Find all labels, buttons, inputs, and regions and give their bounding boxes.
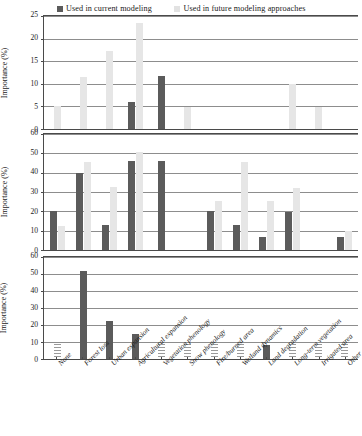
bar-group bbox=[280, 134, 306, 250]
bar-current bbox=[80, 271, 87, 359]
bar-future bbox=[80, 77, 87, 129]
bar-current bbox=[128, 102, 135, 129]
bar-group bbox=[175, 134, 201, 250]
y-tick-label-40: 40 bbox=[30, 169, 38, 177]
bar-future bbox=[315, 107, 322, 129]
x-axis-group: Snow phenology bbox=[174, 360, 200, 436]
bar-group bbox=[175, 16, 201, 129]
y-tick-label-20: 20 bbox=[30, 208, 38, 216]
y-tick-label-25: 25 bbox=[30, 11, 38, 19]
bar-current bbox=[259, 237, 266, 250]
bar-current bbox=[337, 237, 344, 250]
bar-group bbox=[70, 16, 96, 129]
y-tick-label-20: 20 bbox=[30, 34, 38, 42]
x-axis-group: None bbox=[43, 360, 69, 436]
x-axis-group: Vegetation phenology bbox=[148, 360, 174, 436]
bar-current bbox=[158, 76, 165, 129]
y-tick-label-0: 0 bbox=[34, 356, 38, 364]
bar-current bbox=[50, 211, 57, 250]
bar-current bbox=[285, 212, 292, 250]
x-axis-group: Agricultural expansion bbox=[122, 360, 148, 436]
y-tick-label-30: 30 bbox=[30, 188, 38, 196]
bar-group bbox=[253, 134, 279, 250]
plot-area-panel-2 bbox=[43, 133, 358, 251]
y-axis-tick-labels-panel-2: 0102030405060 bbox=[18, 133, 40, 251]
bar-future bbox=[289, 84, 296, 129]
bar-future bbox=[215, 201, 222, 250]
bar-group bbox=[253, 16, 279, 129]
x-axis-group: Urban expansion bbox=[96, 360, 122, 436]
y-tick-label-60: 60 bbox=[30, 252, 38, 260]
bar-current bbox=[128, 161, 135, 250]
legend-label-future: Used in future modeling approaches bbox=[183, 4, 305, 13]
bar-group bbox=[306, 16, 332, 129]
bar-group bbox=[123, 134, 149, 250]
y-axis-tick-labels-panel-1: 0510152025 bbox=[18, 15, 40, 130]
bar-current bbox=[102, 225, 109, 250]
y-axis-title-panel-2: Importance (%) bbox=[0, 167, 9, 217]
bar-current bbox=[76, 173, 83, 250]
bar-group bbox=[70, 134, 96, 250]
y-tick-label-40: 40 bbox=[30, 287, 38, 295]
chart-legend: Used in current modelingUsed in future m… bbox=[0, 2, 362, 15]
bar-future bbox=[345, 231, 352, 250]
bar-group bbox=[332, 16, 358, 129]
chart-panel-2: Importance (%) 0102030405060 bbox=[0, 133, 362, 251]
y-tick-label-50: 50 bbox=[30, 149, 38, 157]
bar-future bbox=[293, 188, 300, 250]
legend-swatch-future bbox=[174, 6, 180, 12]
y-tick-label-10: 10 bbox=[30, 228, 38, 236]
bar-current bbox=[207, 211, 214, 250]
chart-panel-1: Importance (%) 0510152025 bbox=[0, 15, 362, 130]
legend-entry-future: Used in future modeling approaches bbox=[174, 4, 306, 13]
y-tick-label-20: 20 bbox=[30, 322, 38, 330]
bar-group bbox=[306, 134, 332, 250]
x-axis-group: Land degradation bbox=[253, 360, 279, 436]
bar-group bbox=[96, 16, 122, 129]
bar-group-container-panel-2 bbox=[44, 134, 358, 250]
bar-future bbox=[241, 162, 248, 250]
y-tick-label-30: 30 bbox=[30, 304, 38, 312]
bar-group bbox=[123, 16, 149, 129]
y-tick-label-5: 5 bbox=[34, 103, 38, 111]
bar-future bbox=[106, 51, 113, 129]
bar-group bbox=[227, 134, 253, 250]
chart-figure: Used in current modelingUsed in future m… bbox=[0, 0, 362, 436]
bar-future bbox=[184, 107, 191, 129]
bar-group bbox=[149, 134, 175, 250]
x-axis-category-labels: NoneForest lossUrban expansionAgricultur… bbox=[43, 360, 358, 436]
y-tick-label-10: 10 bbox=[30, 80, 38, 88]
y-axis-tick-labels-panel-3: 0102030405060 bbox=[18, 256, 40, 360]
bar-group bbox=[44, 257, 70, 359]
bar-future bbox=[136, 23, 143, 129]
x-axis-group: Wetland dynamics bbox=[227, 360, 253, 436]
bar-group bbox=[201, 16, 227, 129]
y-tick-label-50: 50 bbox=[30, 270, 38, 278]
bar-future bbox=[84, 162, 91, 250]
bar-group bbox=[332, 134, 358, 250]
y-tick-label-15: 15 bbox=[30, 57, 38, 65]
bar-current bbox=[158, 161, 165, 250]
x-axis-group: Other bbox=[332, 360, 358, 436]
x-axis-group: Irrigated area bbox=[306, 360, 332, 436]
bar-group-container-panel-1 bbox=[44, 16, 358, 129]
y-tick-mark-0 bbox=[41, 129, 44, 130]
bar-group bbox=[280, 16, 306, 129]
x-axis-group: Fire/burned area bbox=[201, 360, 227, 436]
bar-group bbox=[227, 16, 253, 129]
bar-future bbox=[110, 187, 117, 250]
x-axis-group: Forest loss bbox=[69, 360, 95, 436]
bar-future bbox=[58, 226, 65, 250]
bar-group bbox=[44, 134, 70, 250]
y-axis-title-panel-1: Importance (%) bbox=[0, 47, 9, 97]
y-axis-title-panel-3: Importance (%) bbox=[0, 283, 8, 333]
bar-group bbox=[70, 257, 96, 359]
legend-swatch-current bbox=[57, 6, 63, 12]
bar-group bbox=[44, 16, 70, 129]
legend-label-current: Used in current modeling bbox=[66, 4, 152, 13]
bar-future bbox=[136, 152, 143, 250]
y-tick-label-60: 60 bbox=[30, 129, 38, 137]
bar-group bbox=[96, 134, 122, 250]
y-tick-mark-0 bbox=[41, 250, 44, 251]
legend-entry-current: Used in current modeling bbox=[57, 4, 152, 13]
